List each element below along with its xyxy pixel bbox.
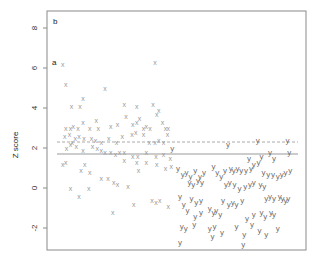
data-point-x: x (155, 111, 159, 118)
data-point-y: y (272, 154, 276, 163)
data-point-y: y (223, 166, 227, 175)
data-point-x: x (115, 139, 119, 146)
data-point-y: y (256, 136, 260, 145)
data-point-x: x (111, 209, 115, 216)
data-point-x: x (158, 197, 162, 204)
data-point-y: y (199, 208, 203, 217)
data-point-x: x (162, 139, 166, 146)
data-point-x: x (109, 149, 113, 156)
data-point-y: y (226, 140, 230, 149)
data-point-x: x (103, 85, 107, 92)
data-point-y: y (263, 212, 267, 221)
data-point-x: x (64, 81, 68, 88)
data-point-y: y (199, 196, 203, 205)
data-point-y: y (261, 168, 265, 177)
annotation-label: a (52, 58, 57, 67)
data-point-x: x (68, 131, 72, 138)
data-point-y: y (192, 220, 196, 229)
data-point-x: x (118, 149, 122, 156)
data-point-x: x (145, 159, 149, 166)
data-point-y: y (176, 164, 180, 173)
y-tick-label: 2 (30, 145, 39, 150)
y-tick-label: 0 (30, 185, 39, 190)
data-point-x: x (148, 125, 152, 132)
data-point-x: x (77, 133, 81, 140)
y-tick-label: 8 (30, 25, 39, 30)
data-point-x: x (122, 157, 126, 164)
data-point-x: x (132, 201, 136, 208)
data-point-x: x (151, 101, 155, 108)
data-point-x: x (145, 149, 149, 156)
data-point-x: x (167, 203, 171, 210)
data-point-y: y (191, 180, 195, 189)
data-point-y: y (285, 136, 289, 145)
data-point-x: x (126, 183, 130, 190)
data-point-x: x (69, 141, 73, 148)
data-point-x: x (155, 161, 159, 168)
data-point-y: y (257, 158, 261, 167)
data-point-y: y (250, 220, 254, 229)
data-point-x: x (138, 115, 142, 122)
y-tick-label: 4 (30, 105, 39, 110)
data-point-x: x (166, 131, 170, 138)
data-point-x: x (147, 139, 151, 146)
data-point-y: y (220, 228, 224, 237)
data-point-x: x (142, 131, 146, 138)
data-point-x: x (122, 101, 126, 108)
data-point-y: y (228, 178, 232, 187)
data-point-x: x (95, 117, 99, 124)
data-point-x: x (169, 163, 173, 170)
data-point-x: x (87, 185, 91, 192)
y-axis: -202468 (30, 25, 47, 231)
data-point-y: y (170, 144, 174, 153)
data-point-y: y (211, 232, 215, 241)
data-point-y: y (237, 184, 241, 193)
data-point-y: y (287, 148, 291, 157)
data-point-x: x (116, 181, 120, 188)
data-point-x: x (106, 175, 110, 182)
data-point-x: x (77, 193, 81, 200)
data-point-x: x (81, 119, 85, 126)
data-point-y: y (240, 196, 244, 205)
data-point-x: x (153, 59, 157, 66)
data-point-y: y (276, 224, 280, 233)
data-point-y: y (271, 170, 275, 179)
data-point-y: y (218, 210, 222, 219)
data-point-y: y (178, 238, 182, 247)
data-point-y: y (189, 194, 193, 203)
data-point-x: x (91, 143, 95, 150)
data-point-x: x (99, 175, 103, 182)
data-point-x: x (169, 155, 173, 162)
data-point-y: y (262, 182, 266, 191)
data-point-x: x (61, 61, 65, 68)
data-point-x: x (135, 159, 139, 166)
data-point-y: y (239, 166, 243, 175)
data-point-x: x (135, 103, 139, 110)
data-point-x: x (162, 151, 166, 158)
data-point-y: y (249, 164, 253, 173)
data-point-x: x (137, 167, 141, 174)
data-point-y: y (252, 178, 256, 187)
data-point-x: x (82, 135, 86, 142)
data-point-x: x (72, 123, 76, 130)
data-point-y: y (264, 230, 268, 239)
data-point-x: x (78, 103, 82, 110)
data-point-y: y (266, 170, 270, 179)
data-point-x: x (88, 169, 92, 176)
y-tick-label: 6 (30, 65, 39, 70)
data-point-y: y (272, 194, 276, 203)
data-point-x: x (69, 185, 73, 192)
data-point-x: x (83, 161, 87, 168)
data-point-x: x (81, 95, 85, 102)
data-point-x: x (164, 165, 168, 172)
data-point-y: y (272, 210, 276, 219)
data-point-x: x (109, 123, 113, 130)
data-point-y: y (235, 200, 239, 209)
data-point-y: y (244, 166, 248, 175)
data-point-x: x (103, 149, 107, 156)
data-point-x: x (122, 149, 126, 156)
data-point-y: y (245, 214, 249, 223)
data-point-x: x (134, 129, 138, 136)
data-point-y: y (243, 182, 247, 191)
data-point-y: y (247, 154, 251, 163)
